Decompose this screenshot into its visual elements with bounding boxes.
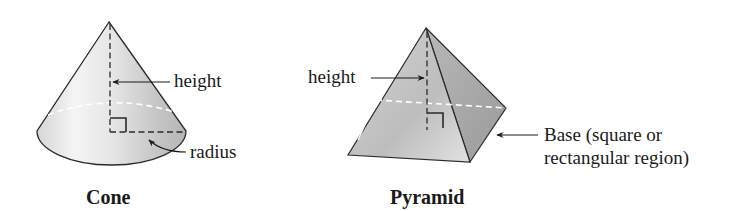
cone-shape bbox=[37, 22, 186, 165]
cone-radius-label: radius bbox=[190, 141, 236, 162]
cone-title: Cone bbox=[86, 186, 130, 209]
pyramid-base-label-line2: rectangular region) bbox=[544, 147, 689, 168]
pyramid-title: Pyramid bbox=[390, 186, 464, 209]
pyramid-height-label: height bbox=[308, 66, 356, 87]
geometry-figure: height radius Cone height Base (square o… bbox=[0, 0, 751, 211]
pyramid-base-label-line1: Base (square or bbox=[544, 124, 662, 145]
cone-height-label: height bbox=[174, 70, 222, 91]
pyramid-shape bbox=[348, 28, 538, 162]
figure-drawing bbox=[0, 0, 751, 211]
